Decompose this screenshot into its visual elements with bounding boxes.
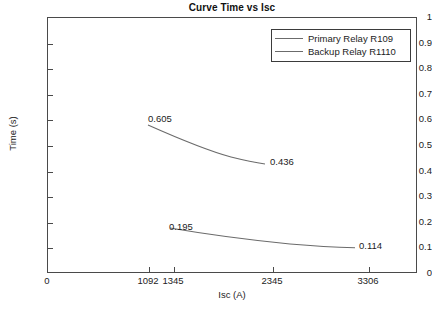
y-tick-mark <box>48 223 53 224</box>
x-tick-mark <box>149 267 150 272</box>
y-tick-mark <box>48 44 53 45</box>
x-tick-mark <box>273 267 274 272</box>
point-label-0114: 0.114 <box>359 240 382 251</box>
x-tick-label-2345: 2345 <box>242 275 302 286</box>
x-tick-mark <box>369 267 370 272</box>
point-label-0436: 0.436 <box>270 156 294 167</box>
x-axis-label: Isc (A) <box>47 289 417 300</box>
y-tick-mark <box>48 172 53 173</box>
legend-line-icon <box>275 38 303 39</box>
x-tick-label-3306: 3306 <box>338 275 398 286</box>
point-label-0195: 0.195 <box>169 221 193 232</box>
point-label-0605: 0.605 <box>148 113 172 124</box>
y-tick-mark <box>48 120 53 121</box>
x-tick-label-0: 0 <box>17 275 77 286</box>
chart-title: Curve Time vs Isc <box>47 2 417 13</box>
chart-figure: Curve Time vs Isc Time (s) 1 0.9 0.8 0.7… <box>0 0 432 312</box>
legend-item-primary-relay-r109[interactable]: Primary Relay R109 <box>275 32 407 45</box>
x-tick-mark <box>174 267 175 272</box>
legend-label: Primary Relay R109 <box>308 33 393 44</box>
legend-label: Backup Relay R1110 <box>308 46 396 57</box>
y-axis-label: Time (s) <box>7 99 18 169</box>
y-tick-mark <box>48 95 53 96</box>
y-tick-mark <box>48 146 53 147</box>
y-tick-mark <box>48 69 53 70</box>
legend-item-backup-relay-r1110[interactable]: Backup Relay R1110 <box>275 45 407 58</box>
y-tick-mark <box>48 197 53 198</box>
x-tick-label-1345: 1345 <box>143 275 203 286</box>
legend-line-icon <box>275 51 303 52</box>
y-tick-mark <box>48 248 53 249</box>
legend[interactable]: Primary Relay R109 Backup Relay R1110 <box>271 29 411 62</box>
